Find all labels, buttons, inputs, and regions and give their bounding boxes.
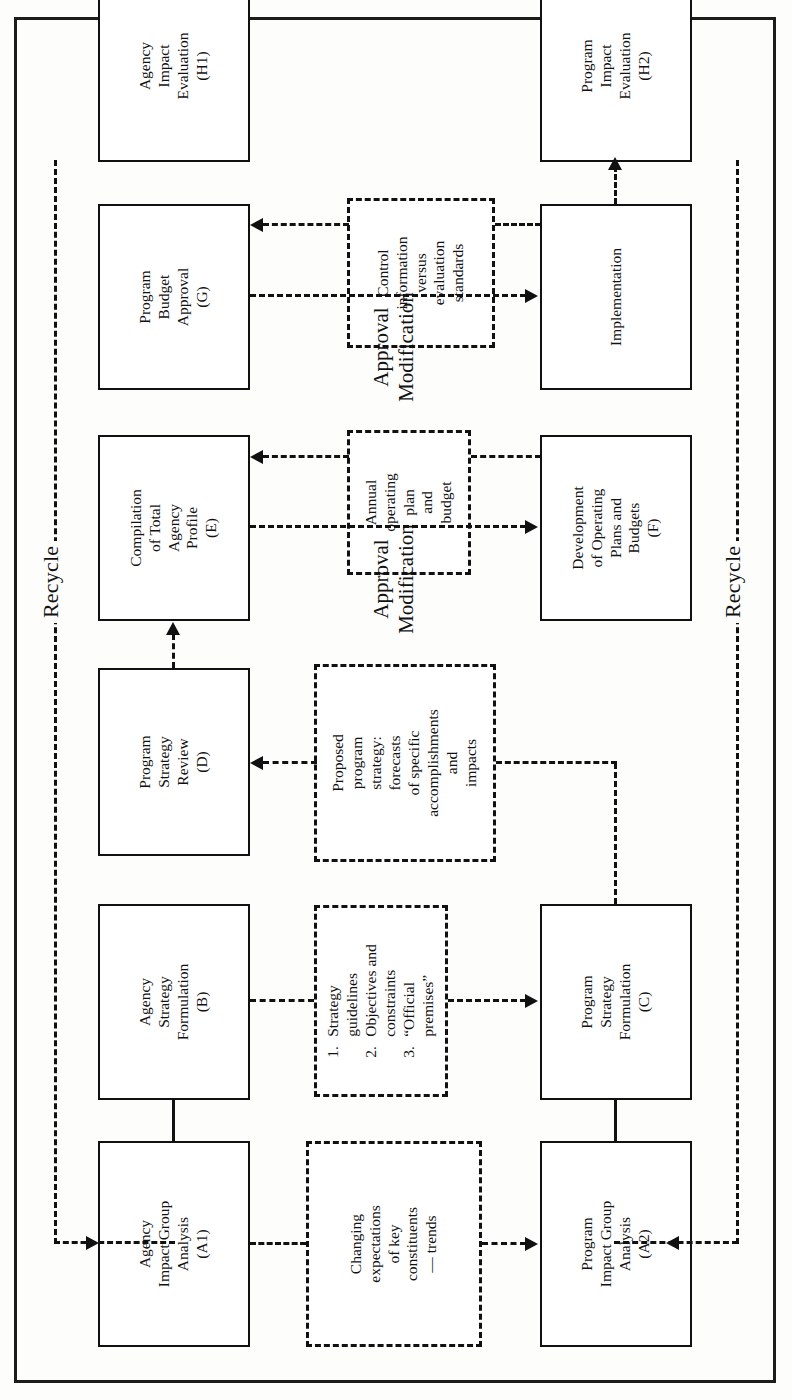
strategy-guidelines-list: 1. Strategy guidelines 2. Objectives and…	[324, 944, 437, 1058]
recycle-label-right: Recycle	[720, 541, 746, 623]
list-item-number: 3.	[400, 1044, 438, 1058]
node-h2-program-impact-evaluation[interactable]: Program Impact Evaluation (H2)	[540, 0, 692, 162]
recycle-right-segment-bottom	[736, 160, 739, 1244]
arrowhead-guidelines-to-c	[525, 994, 538, 1008]
recycle-left-segment-vertical	[54, 1241, 175, 1244]
artifact-proposed-program-strategy-label: Proposed program strategy: forecasts of …	[329, 709, 480, 817]
arrowhead-g-to-implementation	[525, 289, 538, 303]
connector-a1-to-expectations	[250, 1242, 306, 1245]
connector-f-to-annual-plan	[471, 455, 541, 458]
node-implementation-label: Implementation	[607, 248, 626, 346]
arrowhead-e-to-f	[525, 520, 538, 534]
arrowhead-control-info-to-h1	[250, 218, 263, 232]
node-f-development-operating-plans-budgets[interactable]: Development of Operating Plans and Budge…	[540, 435, 692, 621]
arrowhead-annual-plan-to-g	[250, 450, 263, 464]
list-item: 1. Strategy guidelines	[324, 944, 362, 1058]
connector-implementation-to-h2	[614, 166, 617, 204]
connector-g-to-implementation	[250, 294, 526, 297]
recycle-label-left: Recycle	[38, 541, 64, 623]
list-item-text: Objectives and constraints	[362, 944, 400, 1037]
connector-b-to-guidelines	[250, 999, 314, 1002]
arrowhead-implementation-to-h2	[608, 157, 622, 170]
arrowhead-proposed-strategy-to-d	[250, 756, 263, 770]
arrowhead-recycle-right-to-a2	[666, 1236, 679, 1250]
connector-e-to-f	[250, 525, 526, 528]
connector-guidelines-to-c	[448, 999, 526, 1002]
list-item: 2. Objectives and constraints	[362, 944, 400, 1058]
connector-annual-plan-to-g	[263, 455, 349, 458]
node-a1-agency-impact-group-analysis[interactable]: Agency Impact Group Analysis (A1)	[98, 1141, 250, 1347]
artifact-strategy-guidelines: 1. Strategy guidelines 2. Objectives and…	[314, 905, 448, 1097]
node-f-label: Development of Operating Plans and Budge…	[569, 486, 664, 570]
node-h1-agency-impact-evaluation[interactable]: Agency Impact Evaluation (H1)	[98, 0, 250, 162]
connector-expectations-to-a2	[482, 1242, 526, 1245]
connector-control-info-to-h1	[263, 223, 349, 226]
connector-a2-c	[614, 1100, 617, 1141]
connector-c-to-proposed-strategy-h	[614, 763, 617, 904]
flowchart-canvas: Agency Impact Group Analysis (A1) Agency…	[14, 17, 776, 1383]
approval-modification-label-lower: Approval Modification	[369, 287, 419, 407]
connector-c-to-proposed-strategy-v	[496, 761, 617, 764]
list-item-text: “Official premises”	[400, 975, 438, 1037]
node-d-program-strategy-review[interactable]: Program Strategy Review (D)	[98, 668, 250, 856]
node-g-label: Program Budget Approval (G)	[136, 268, 212, 327]
node-c-label: Program Strategy Formulation (C)	[578, 964, 654, 1041]
node-c-program-strategy-formulation[interactable]: Program Strategy Formulation (C)	[540, 904, 692, 1100]
node-d-label: Program Strategy Review (D)	[136, 735, 212, 788]
list-item-number: 1.	[324, 1044, 362, 1058]
node-e-label: Compilation of Total Agency Profile (E)	[127, 489, 222, 567]
list-item-text: Strategy guidelines	[324, 973, 362, 1037]
connector-proposed-strategy-to-d	[263, 761, 317, 764]
artifact-changing-expectations-label: Changing expectations of key constituent…	[347, 1205, 442, 1282]
list-item: 3. “Official premises”	[400, 944, 438, 1058]
arrowhead-recycle-left-to-a1	[86, 1236, 99, 1250]
list-item-number: 2.	[362, 1044, 400, 1058]
node-e-compilation-total-agency-profile[interactable]: Compilation of Total Agency Profile (E)	[98, 435, 250, 621]
arrowhead-expectations-to-a2	[525, 1237, 538, 1251]
node-implementation[interactable]: Implementation	[540, 204, 692, 390]
node-b-agency-strategy-formulation[interactable]: Agency Strategy Formulation (B)	[98, 904, 250, 1100]
approval-modification-label-upper: Approval Modification	[369, 519, 419, 639]
arrowhead-d-to-e	[166, 622, 180, 635]
node-g-program-budget-approval[interactable]: Program Budget Approval (G)	[98, 204, 250, 390]
diagram-page: Agency Impact Group Analysis (A1) Agency…	[0, 0, 792, 1400]
connector-a1-b	[172, 1100, 175, 1141]
node-h2-label: Program Impact Evaluation (H2)	[578, 32, 654, 99]
connector-implementation-to-control-info	[495, 223, 541, 226]
connector-d-to-e	[172, 634, 175, 668]
node-a1-label: Agency Impact Group Analysis (A1)	[136, 1201, 212, 1288]
artifact-changing-expectations: Changing expectations of key constituent…	[306, 1141, 482, 1347]
recycle-left-segment-top	[54, 160, 57, 1244]
node-b-label: Agency Strategy Formulation (B)	[136, 964, 212, 1041]
artifact-proposed-program-strategy: Proposed program strategy: forecasts of …	[314, 664, 496, 862]
node-h1-label: Agency Impact Evaluation (H1)	[136, 32, 212, 99]
node-a2-label: Program Impact Group Analysis (A2)	[578, 1201, 654, 1288]
